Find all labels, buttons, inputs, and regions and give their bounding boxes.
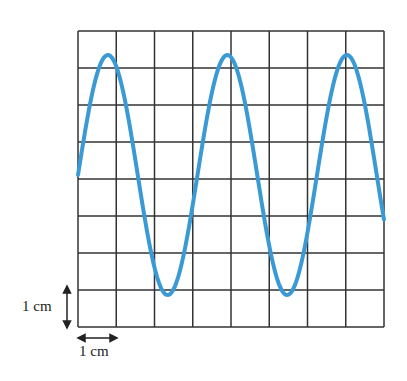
vertical-scale-label: 1 cm — [22, 298, 52, 315]
horizontal-scale-label: 1 cm — [79, 343, 109, 360]
oscilloscope-diagram — [0, 0, 407, 381]
horizontal-scale-arrow — [78, 335, 117, 342]
vertical-scale-arrow — [64, 286, 71, 328]
grid — [78, 31, 384, 327]
